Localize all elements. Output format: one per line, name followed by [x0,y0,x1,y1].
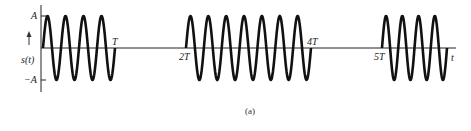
figure-caption: (a) [245,106,255,116]
signal-figure: A s(t) −A T 2T 4T 5T t (a) [0,0,471,131]
label-neg-A: −A [24,74,38,85]
burst-2-waveform [186,16,311,80]
label-s-of-t: s(t) [21,54,35,66]
label-5T: 5T [374,51,386,62]
label-t: t [451,52,454,63]
label-2T: 2T [179,51,191,62]
label-4T: 4T [307,36,319,47]
up-arrow-icon [27,31,32,45]
label-A: A [30,10,38,21]
label-T: T [112,36,119,47]
